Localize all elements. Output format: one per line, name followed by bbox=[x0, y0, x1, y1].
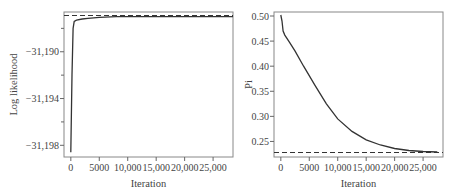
x-tick-label: 15,000 bbox=[352, 162, 380, 173]
x-tick-label: 20,000 bbox=[381, 162, 409, 173]
x-tick-label: 0 bbox=[68, 162, 73, 173]
y-tick-label: 0.45 bbox=[252, 36, 270, 47]
pi-chart: 0500010,00015,00020,00025,0000.250.300.3… bbox=[236, 0, 457, 194]
y-tick-label: 0.30 bbox=[252, 111, 270, 122]
x-tick-label: 15,000 bbox=[142, 162, 170, 173]
trace-line bbox=[281, 15, 438, 152]
log-likelihood-chart: 0500010,00015,00020,00025,000−31,190−31,… bbox=[0, 0, 236, 194]
y-tick-label: −31,194 bbox=[26, 93, 59, 104]
plot-frame bbox=[64, 12, 233, 157]
y-tick-label: 0.35 bbox=[252, 86, 270, 97]
x-tick-label: 25,000 bbox=[199, 162, 227, 173]
x-tick-label: 25,000 bbox=[409, 162, 437, 173]
y-tick-label: −31,190 bbox=[26, 46, 59, 57]
y-tick-label: −31,198 bbox=[26, 140, 59, 151]
y-axis-label: Pi bbox=[243, 80, 254, 89]
y-tick-label: 0.50 bbox=[252, 11, 270, 22]
x-axis-label: Iteration bbox=[131, 178, 167, 189]
x-axis-label: Iteration bbox=[341, 178, 377, 189]
x-tick-label: 10,000 bbox=[324, 162, 352, 173]
pi-plot: 0500010,00015,00020,00025,0000.250.300.3… bbox=[236, 0, 457, 194]
x-tick-label: 20,000 bbox=[171, 162, 199, 173]
x-tick-label: 10,000 bbox=[114, 162, 142, 173]
x-tick-label: 0 bbox=[278, 162, 283, 173]
y-axis-label: Log likelihood bbox=[8, 53, 19, 116]
x-tick-label: 5000 bbox=[89, 162, 109, 173]
log-likelihood-plot: 0500010,00015,00020,00025,000−31,190−31,… bbox=[0, 0, 236, 194]
y-tick-label: 0.40 bbox=[252, 61, 270, 72]
y-tick-label: 0.25 bbox=[252, 136, 270, 147]
x-tick-label: 5000 bbox=[299, 162, 319, 173]
trace-line bbox=[71, 17, 233, 153]
